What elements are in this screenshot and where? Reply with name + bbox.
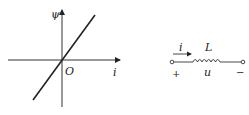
right-terminal xyxy=(241,60,245,64)
figure-canvas xyxy=(0,0,249,115)
psi-i-graph xyxy=(8,10,120,107)
plus-sign: + xyxy=(172,69,180,79)
characteristic-line xyxy=(33,15,95,100)
y-axis-label: ψ xyxy=(51,9,60,20)
inductor-coil xyxy=(193,60,220,63)
origin-label: O xyxy=(65,66,74,77)
left-terminal xyxy=(170,60,174,64)
minus-sign: − xyxy=(236,68,244,78)
x-axis-label: i xyxy=(113,67,117,78)
voltage-label: u xyxy=(204,67,211,78)
inductor-circuit xyxy=(170,54,245,64)
inductor-label: L xyxy=(205,42,212,53)
current-label: i xyxy=(179,42,183,53)
